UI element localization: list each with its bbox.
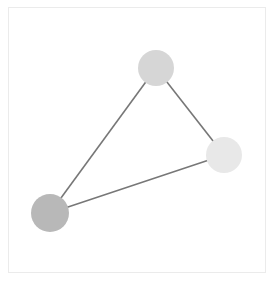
node-left [31, 194, 69, 232]
node-top [138, 50, 174, 86]
edge-top-left [50, 68, 156, 213]
node-right [206, 137, 242, 173]
edges-group [50, 68, 224, 213]
edge-right-left [50, 155, 224, 213]
network-graph [0, 0, 277, 281]
nodes-group [31, 50, 242, 232]
